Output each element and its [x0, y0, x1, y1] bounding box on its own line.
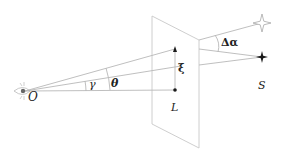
lens-label: L	[171, 102, 178, 113]
optical-axis-line	[25, 90, 175, 91]
deflection-arc	[215, 35, 219, 52]
deflection-angle-label: Δα	[221, 37, 238, 48]
gamma-label: γ	[89, 79, 96, 90]
theta-arc	[106, 68, 110, 90]
lensing-diagram: O γ θ ξ L Δα S	[0, 0, 281, 160]
source-label: S	[258, 80, 266, 91]
diagram-canvas	[0, 0, 281, 160]
image-ray-line	[25, 49, 175, 91]
lens-point	[173, 88, 177, 92]
observer-label: O	[28, 91, 38, 103]
source-star-icon	[256, 51, 268, 63]
apparent-star-icon	[253, 14, 271, 32]
theta-label: θ	[111, 78, 118, 89]
xi-label: ξ	[178, 63, 185, 74]
source-direction-line	[25, 66, 181, 91]
deflected-ray-line	[199, 49, 262, 57]
gamma-arc	[85, 81, 86, 91]
lens-plane	[152, 16, 199, 148]
direct-ray-line	[199, 57, 262, 65]
